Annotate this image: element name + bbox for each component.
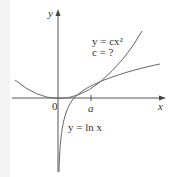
ln-curve [59,64,160,172]
diagram-canvas: y x 0 a y = cx² c = ? y = ln x [0,0,177,177]
parabola-curve [15,31,142,99]
x-axis-label: x [157,100,163,112]
tick-a-label: a [88,102,94,114]
ln-equation-label: y = ln x [68,121,103,133]
x-axis [12,96,166,101]
parabola-constant-label: c = ? [92,46,114,58]
y-axis-label: y [47,7,53,19]
y-axis-arrow-icon [56,9,61,16]
origin-label: 0 [52,100,58,112]
